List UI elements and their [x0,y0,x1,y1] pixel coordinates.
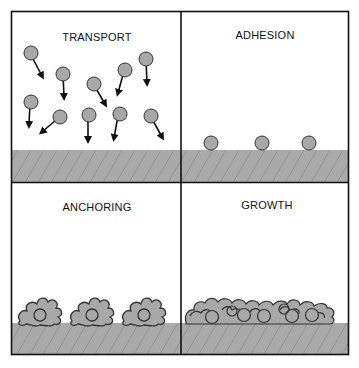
substrate-anchoring [12,323,181,354]
panel-label-transport: TRANSPORT [17,31,177,43]
substrate-growth [181,323,348,354]
panel-label-adhesion: ADHESION [185,29,345,41]
adhesion-particles [204,136,316,150]
panel-label-growth: GROWTH [187,199,347,211]
panel-label-anchoring: ANCHORING [17,201,177,213]
anchoring-cells [19,298,166,326]
transport-particles [29,55,162,140]
growth-cells [185,298,333,324]
biofilm-formation-diagram [0,0,359,368]
substrate-transport [12,150,181,182]
substrate-adhesion [181,150,348,182]
transport-particle-circles [24,46,158,124]
